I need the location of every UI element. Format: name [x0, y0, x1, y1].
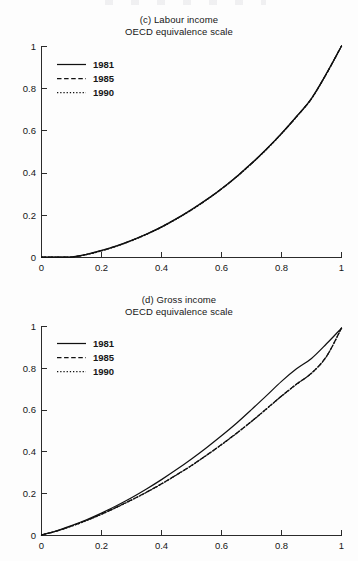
curve-1990-panel-c — [42, 46, 342, 257]
legend-label-1985-panel-d: 1985 — [93, 352, 115, 363]
curve-1985-panel-c — [42, 46, 342, 257]
panel-c-xtick-06: 0.6 — [215, 262, 228, 273]
panel-d-ytick-1: 1 — [31, 321, 36, 332]
curve-1990-panel-d — [42, 328, 342, 535]
panel-d-xtick-02: 0.2 — [95, 540, 108, 551]
panel-d-ytick-06: 0.6 — [23, 404, 36, 415]
curve-1981-panel-d — [42, 328, 342, 535]
panel-d-y-ticks — [42, 327, 48, 494]
panel-d-y-tick-labels: 1 0.8 0.6 0.4 0.2 0 — [23, 321, 36, 541]
panel-c-curves — [42, 46, 342, 257]
panel-d-ytick-02: 0.2 — [23, 488, 36, 499]
chart-panel-c: (c) Labour income OECD equivalence scale — [0, 0, 358, 280]
legend-label-1990-panel-d: 1990 — [93, 366, 114, 377]
panel-c-ytick-06: 0.6 — [23, 125, 36, 136]
chart-panel-d: (d) Gross income OECD equivalence scale — [0, 280, 358, 561]
legend-label-1990-panel-c: 1990 — [93, 87, 114, 98]
panel-c-ytick-08: 0.8 — [23, 83, 36, 94]
panel-c-xtick-08: 0.8 — [275, 262, 288, 273]
panel-d-x-tick-labels: 0 0.2 0.4 0.6 0.8 1 — [39, 540, 344, 551]
panel-d-xtick-06: 0.6 — [215, 540, 228, 551]
panel-d-x-ticks — [102, 530, 342, 536]
panel-d-curves — [42, 328, 342, 535]
panel-c-xtick-0: 0 — [39, 262, 44, 273]
panel-c-x-ticks — [102, 252, 342, 258]
panel-c-y-tick-labels: 1 0.8 0.6 0.4 0.2 0 — [23, 41, 36, 263]
panel-d-ytick-08: 0.8 — [23, 363, 36, 374]
legend-label-1981-panel-c: 1981 — [93, 59, 115, 70]
panel-d-xtick-1: 1 — [339, 540, 344, 551]
panel-d-xtick-04: 0.4 — [155, 540, 168, 551]
panel-d-legend: 1981 1985 1990 — [57, 338, 115, 377]
panel-d-xtick-08: 0.8 — [275, 540, 288, 551]
legend-label-1981-panel-d: 1981 — [93, 338, 115, 349]
panel-d-ytick-04: 0.4 — [23, 446, 36, 457]
panel-c-xtick-02: 0.2 — [95, 262, 108, 273]
curve-1985-panel-d — [42, 328, 342, 535]
panel-d-xtick-0: 0 — [39, 540, 44, 551]
curve-1981-panel-c — [42, 46, 342, 257]
panel-d-ytick-0: 0 — [31, 530, 36, 541]
panel-c-legend: 1981 1985 1990 — [57, 59, 115, 98]
panel-c-ytick-1: 1 — [31, 41, 36, 52]
panel-c-plot: 1 0.8 0.6 0.4 0.2 0 0 0.2 0.4 0.6 0.8 1 — [0, 0, 358, 280]
panel-c-xtick-1: 1 — [339, 262, 344, 273]
panel-c-ytick-04: 0.4 — [23, 167, 36, 178]
panel-c-xtick-04: 0.4 — [155, 262, 168, 273]
figure-page: (c) Labour income OECD equivalence scale — [0, 0, 358, 561]
panel-d-plot: 1 0.8 0.6 0.4 0.2 0 0 0.2 0.4 0.6 0.8 1 — [0, 280, 358, 561]
panel-c-ytick-02: 0.2 — [23, 210, 36, 221]
panel-c-y-ticks — [42, 47, 48, 216]
panel-c-x-tick-labels: 0 0.2 0.4 0.6 0.8 1 — [39, 262, 344, 273]
legend-label-1985-panel-c: 1985 — [93, 73, 115, 84]
panel-c-ytick-0: 0 — [31, 252, 36, 263]
